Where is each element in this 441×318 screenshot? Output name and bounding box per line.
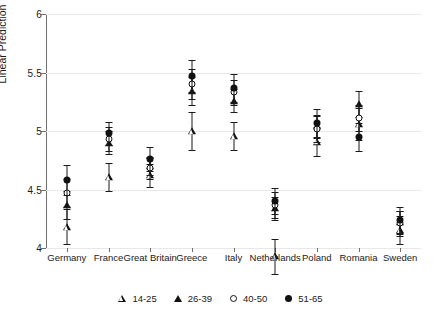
data-point-marker: [188, 127, 196, 134]
y-axis-title: Linear Prediction: [0, 0, 8, 104]
x-axis-category-label: Germany: [47, 252, 86, 263]
error-bar-cap: [105, 154, 112, 155]
gridline: [46, 14, 421, 15]
error-bar-cap: [147, 179, 154, 180]
legend-label: 26-39: [188, 293, 212, 304]
x-axis-category-label: Great Britain: [123, 252, 176, 263]
error-bar-cap: [230, 112, 237, 113]
error-bar-cap: [105, 163, 112, 164]
error-bar-cap: [313, 142, 320, 143]
data-point-marker: [105, 173, 113, 180]
data-point-marker: [355, 115, 362, 122]
legend-marker-icon: [229, 294, 238, 303]
error-bar-cap: [355, 91, 362, 92]
x-axis-category-label: Netherlands: [250, 252, 301, 263]
error-bar-cap: [272, 218, 279, 219]
data-point-marker: [355, 133, 362, 140]
x-axis-category-label: Poland: [302, 252, 332, 263]
error-bar-cap: [105, 191, 112, 192]
data-point-marker: [397, 216, 404, 223]
error-bar-cap: [188, 92, 195, 93]
error-bar-cap: [397, 207, 404, 208]
y-axis-tick: [41, 190, 46, 191]
error-bar-cap: [63, 207, 70, 208]
legend-marker-icon: [284, 294, 293, 303]
legend-item: 26-39: [174, 293, 212, 304]
gridline: [46, 190, 421, 191]
error-bar-cap: [397, 244, 404, 245]
y-axis-tick: [41, 14, 46, 15]
error-bar-cap: [147, 147, 154, 148]
data-point-marker: [188, 73, 195, 80]
data-point-marker: [147, 156, 154, 163]
error-bar-cap: [272, 239, 279, 240]
error-bar-cap: [313, 156, 320, 157]
legend-item: 51-65: [284, 293, 322, 304]
data-point-marker: [63, 177, 70, 184]
plot-area: [46, 14, 421, 249]
error-bar-cap: [105, 122, 112, 123]
legend-item: 14-25: [118, 293, 156, 304]
error-bar-cap: [355, 105, 362, 106]
legend-label: 40-50: [243, 293, 267, 304]
error-bar-cap: [105, 145, 112, 146]
error-bar-cap: [63, 244, 70, 245]
error-bar-cap: [230, 105, 237, 106]
error-bar-cap: [272, 274, 279, 275]
y-axis-tick: [41, 131, 46, 132]
legend-marker-icon: [174, 294, 183, 303]
data-point-marker: [105, 130, 112, 137]
legend-label: 14-25: [132, 293, 156, 304]
error-bar-cap: [313, 137, 320, 138]
x-axis-category-label: Sweden: [383, 252, 417, 263]
legend-marker-icon: [118, 294, 127, 303]
error-bar-cap: [63, 165, 70, 166]
data-point-marker: [313, 119, 320, 126]
data-point-marker: [230, 84, 237, 91]
error-bar-cap: [313, 109, 320, 110]
error-bar-cap: [63, 195, 70, 196]
y-axis-tick-label: 5.5: [27, 67, 42, 78]
x-axis-category-label: France: [94, 252, 124, 263]
chart-figure: 44.555.56 Linear Prediction GermanyFranc…: [0, 0, 441, 318]
x-axis-category-label: Romania: [339, 252, 377, 263]
x-axis-category-label: Italy: [225, 252, 242, 263]
error-bar-cap: [230, 122, 237, 123]
y-axis-tick: [41, 248, 46, 249]
data-point-marker: [63, 223, 71, 230]
error-bar-cap: [230, 150, 237, 151]
error-bar-cap: [272, 220, 279, 221]
error-bar-cap: [355, 123, 362, 124]
x-axis-category-label: Greece: [176, 252, 207, 263]
y-axis-tick: [41, 73, 46, 74]
error-bar-cap: [147, 171, 154, 172]
error-bar-cap: [355, 151, 362, 152]
data-point-marker: [272, 198, 279, 205]
error-bar-cap: [188, 112, 195, 113]
error-bar-cap: [188, 150, 195, 151]
y-axis-tick-label: 4.5: [27, 184, 42, 195]
error-bar-cap: [272, 214, 279, 215]
chart-legend: 14-2526-3940-5051-65: [0, 288, 441, 308]
legend-label: 51-65: [298, 293, 322, 304]
error-bar-cap: [188, 105, 195, 106]
error-bar-cap: [397, 233, 404, 234]
error-bar-cap: [147, 187, 154, 188]
error-bar-cap: [230, 102, 237, 103]
error-bar-cap: [63, 219, 70, 220]
error-bar-cap: [105, 151, 112, 152]
error-bar-cap: [272, 188, 279, 189]
error-bar-cap: [230, 74, 237, 75]
error-bar-cap: [188, 99, 195, 100]
x-axis-category-labels: GermanyFranceGreat BritainGreeceItalyNet…: [46, 252, 421, 268]
error-bar-cap: [397, 236, 404, 237]
data-point-marker: [230, 132, 238, 139]
legend-item: 40-50: [229, 293, 267, 304]
error-bar-cap: [188, 60, 195, 61]
